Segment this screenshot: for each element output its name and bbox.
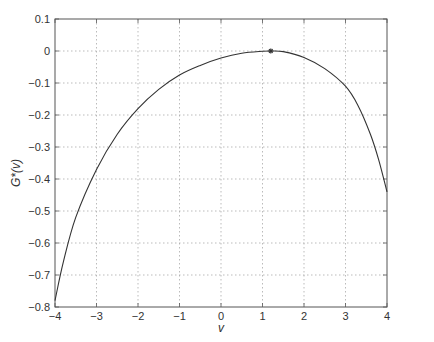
x-tick-label: 2 — [301, 310, 307, 322]
y-tick-label: −0.3 — [28, 141, 50, 153]
x-tick-label: 1 — [259, 310, 265, 322]
grid-lines — [55, 19, 387, 307]
y-tick-label: −0.8 — [28, 301, 50, 313]
y-tick-label: −0.1 — [28, 77, 50, 89]
y-tick-label: −0.4 — [28, 173, 50, 185]
y-tick-label: 0 — [44, 45, 50, 57]
x-tick-label: −1 — [173, 310, 186, 322]
y-tick-label: −0.7 — [28, 269, 50, 281]
x-axis-label: v — [218, 321, 225, 335]
y-axis-label: G*(v) — [9, 159, 23, 187]
x-tick-label: −2 — [132, 310, 145, 322]
y-tick-label: −0.2 — [28, 109, 50, 121]
x-tick-label: 4 — [384, 310, 390, 322]
asterisk-marker-icon — [268, 48, 273, 53]
y-tick-label: −0.5 — [28, 205, 50, 217]
x-tick-label: −3 — [90, 310, 103, 322]
line-chart: −4−3−2−101234 −0.8−0.7−0.6−0.5−0.4−0.3−0… — [0, 0, 434, 342]
max-point-marker — [268, 48, 273, 53]
x-tick-label: −4 — [49, 310, 62, 322]
y-tick-label: 0.1 — [35, 13, 50, 25]
y-axis-tick-labels: −0.8−0.7−0.6−0.5−0.4−0.3−0.2−0.100.1 — [28, 13, 50, 313]
y-tick-label: −0.6 — [28, 237, 50, 249]
x-tick-label: 3 — [342, 310, 348, 322]
